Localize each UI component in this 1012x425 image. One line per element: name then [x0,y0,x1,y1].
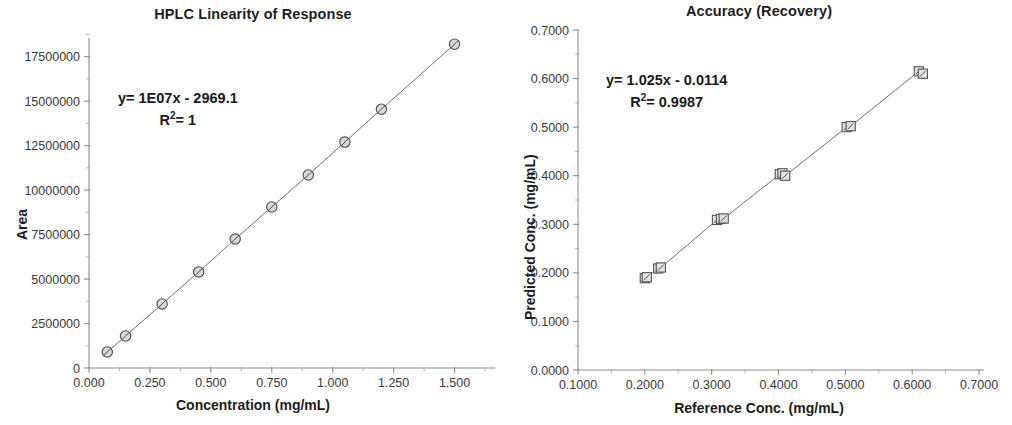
x-tick-label: 0.750 [256,376,287,390]
regression-r2-left: R2= 1 [118,109,238,131]
x-tick-label: 0.7000 [960,378,998,392]
y-tick-label: 12500000 [24,139,80,153]
y-tick-label: 17500000 [24,50,80,64]
regression-r2-right: R2= 0.9987 [606,91,727,113]
regression-equation-left: y= 1E07x - 2969.1 [118,90,238,106]
x-tick-label: 1.000 [317,376,348,390]
data-point-marker [781,171,790,180]
regression-annotation-hplc-linearity: y= 1E07x - 2969.1 R2= 1 [118,88,238,131]
data-point-marker [102,347,112,357]
data-point-marker [230,234,240,244]
x-tick-label: 0.5000 [826,378,864,392]
y-tick-label: 0.5000 [531,121,569,135]
y-tick-label: 0 [73,362,80,376]
regression-annotation-accuracy-recovery: y= 1.025x - 0.0114 R2= 0.9987 [606,70,727,113]
x-tick-label: 0.1000 [559,378,597,392]
y-tick-label: 15000000 [24,95,80,109]
y-tick-label: 0.6000 [531,72,569,86]
plot-area-accuracy-recovery: 0.00000.10000.20000.30000.40000.50000.60… [506,0,1012,425]
data-point-marker [157,299,167,309]
x-tick-label: 0.2000 [626,378,664,392]
x-axis-title-hplc-linearity: Concentration (mg/mL) [0,397,506,413]
y-tick-label: 2500000 [31,317,80,331]
y-axis-title-hplc-linearity: Area [14,209,30,240]
data-point-marker [303,170,313,180]
data-point-marker [918,69,927,78]
data-point-marker [642,273,651,282]
figure-canvas: HPLC Linearity of Response 0250000050000… [0,0,1012,425]
x-axis-title-accuracy-recovery: Reference Conc. (mg/mL) [506,400,1012,416]
data-point-marker [193,267,203,277]
data-point-marker [449,39,459,49]
chart-panel-accuracy-recovery: Accuracy (Recovery) 0.00000.10000.20000.… [506,0,1012,425]
regression-equation-right: y= 1.025x - 0.0114 [606,72,727,88]
y-tick-label: 7500000 [31,228,80,242]
x-tick-label: 1.250 [378,376,409,390]
data-point-marker [120,331,130,341]
data-point-marker [656,263,665,272]
x-tick-label: 0.4000 [759,378,797,392]
x-tick-label: 0.000 [73,376,104,390]
x-tick-label: 0.6000 [893,378,931,392]
y-tick-label: 10000000 [24,184,80,198]
data-point-marker [376,104,386,114]
data-point-marker [340,137,350,147]
x-tick-label: 0.250 [134,376,165,390]
y-axis-title-accuracy-recovery: Predicted Conc. (mg/mL) [522,154,538,320]
plot-area-hplc-linearity: 0250000050000007500000100000001250000015… [0,0,506,425]
y-tick-label: 0.7000 [531,24,569,38]
y-tick-label: 0.0000 [531,364,569,378]
y-tick-label: 5000000 [31,273,80,287]
data-point-marker [846,122,855,131]
x-tick-label: 1.500 [439,376,470,390]
data-point-marker [719,214,728,223]
data-point-marker [267,202,277,212]
chart-panel-hplc-linearity: HPLC Linearity of Response 0250000050000… [0,0,506,425]
x-tick-label: 0.3000 [693,378,731,392]
x-tick-label: 0.500 [195,376,226,390]
